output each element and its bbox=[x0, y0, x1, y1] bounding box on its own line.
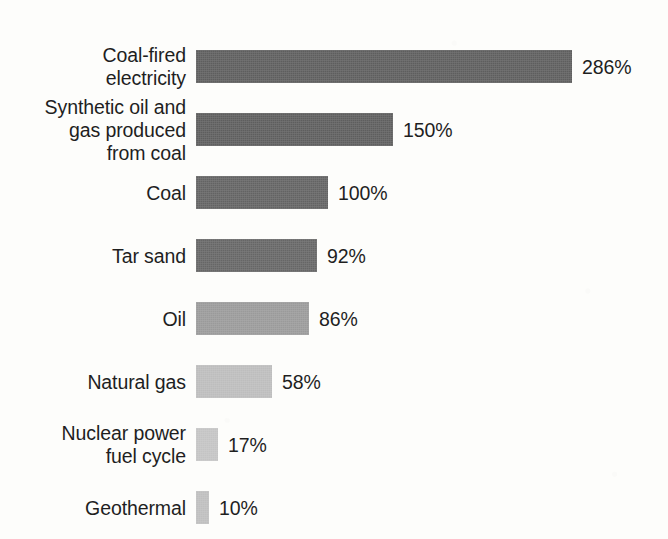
category-label: Synthetic oil and gas produced from coal bbox=[0, 95, 186, 164]
category-label: Natural gas bbox=[0, 370, 186, 393]
category-label: Coal bbox=[0, 181, 186, 204]
value-label: 17% bbox=[228, 433, 267, 456]
bar-row: Coal100% bbox=[0, 176, 668, 209]
bar bbox=[196, 365, 272, 398]
bar-row: Natural gas58% bbox=[0, 365, 668, 398]
bar-row: Oil86% bbox=[0, 302, 668, 335]
bar bbox=[196, 302, 309, 335]
value-label: 92% bbox=[327, 244, 366, 267]
value-label: 86% bbox=[319, 307, 358, 330]
category-label: Tar sand bbox=[0, 244, 186, 267]
category-label: Nuclear power fuel cycle bbox=[0, 422, 186, 468]
bar-row: Coal-fired electricity286% bbox=[0, 50, 668, 83]
category-label: Oil bbox=[0, 307, 186, 330]
bar-row: Nuclear power fuel cycle17% bbox=[0, 428, 668, 461]
bar bbox=[196, 176, 328, 209]
value-label: 286% bbox=[582, 55, 631, 78]
value-label: 58% bbox=[282, 370, 321, 393]
bar-row: Synthetic oil and gas produced from coal… bbox=[0, 113, 668, 146]
bar-row: Geothermal10% bbox=[0, 491, 668, 524]
bar-row: Tar sand92% bbox=[0, 239, 668, 272]
category-label: Geothermal bbox=[0, 496, 186, 519]
bar bbox=[196, 239, 317, 272]
value-label: 10% bbox=[219, 496, 258, 519]
bar bbox=[196, 50, 572, 83]
category-label: Coal-fired electricity bbox=[0, 44, 186, 90]
value-label: 100% bbox=[338, 181, 387, 204]
bar bbox=[196, 428, 218, 461]
bar-chart: Coal-fired electricity286%Synthetic oil … bbox=[0, 0, 668, 539]
bar bbox=[196, 113, 393, 146]
bar bbox=[196, 491, 209, 524]
value-label: 150% bbox=[403, 118, 452, 141]
